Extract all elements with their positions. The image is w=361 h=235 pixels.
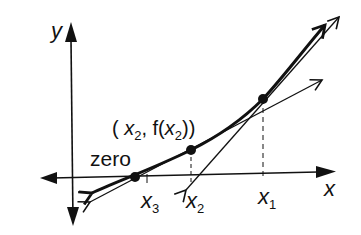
x3-label: x3 [141,190,159,212]
y-axis-arrow-down-icon [67,207,79,226]
point-label-x2: x [165,117,175,139]
x3-label-sub: 3 [152,201,159,216]
x2-label: x2 [186,190,204,212]
x2-point [186,145,196,155]
point-label-mid: , f( [141,117,164,139]
point-label-close: )) [182,117,195,139]
point-label-open: ( [112,117,124,139]
point-label-x2-sub: 2 [175,128,182,143]
x-axis-label: x [324,178,335,200]
x2-label-x: x [186,188,197,213]
x-axis-arrow-left-icon [40,172,57,184]
y-axis-label: y [51,20,62,42]
x1-point [258,94,268,104]
point-label-x-sub: 2 [134,128,141,143]
x1-label-x: x [258,184,269,209]
x2-label-sub: 2 [197,201,204,216]
point-label-x: x [124,117,134,139]
y-axis-arrow-up-icon [65,22,77,42]
y-axis [65,22,79,226]
x-axis [40,166,336,184]
x3-label-x: x [141,188,152,213]
x1-label: x1 [258,186,276,208]
x1-label-sub: 1 [269,197,276,212]
zero-label: zero [90,148,131,169]
zero-point [130,172,140,182]
point-label: ( x2, f(x2)) [112,118,195,138]
